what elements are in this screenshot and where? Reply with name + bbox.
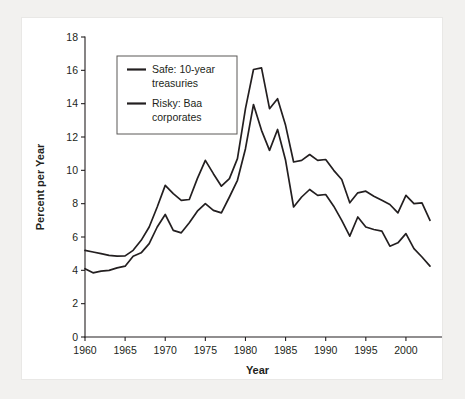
figure-root: 0246810121416181960196519701975198019851… — [0, 0, 465, 399]
legend-label-1-line2: corporates — [152, 111, 202, 123]
legend-label-0-line2: treasuries — [152, 77, 198, 89]
legend-label-1-line1: Risky: Baa — [152, 97, 202, 109]
x-tick-label-1990: 1990 — [314, 344, 338, 356]
x-tick-label-1970: 1970 — [154, 344, 178, 356]
chart-card: 0246810121416181960196519701975198019851… — [22, 18, 442, 379]
y-tick-label-4: 4 — [72, 264, 78, 276]
y-tick-label-12: 12 — [66, 131, 78, 143]
x-axis-title: Year — [246, 364, 270, 376]
x-tick-label-1965: 1965 — [113, 344, 137, 356]
axis-titles: YearPercent per Year — [34, 143, 270, 376]
y-tick-label-8: 8 — [72, 197, 78, 209]
y-tick-label-2: 2 — [72, 297, 78, 309]
y-tick-label-16: 16 — [66, 64, 78, 76]
legend-label-0-line1: Safe: 10-year — [152, 63, 216, 75]
chart-legend[interactable]: Safe: 10-yeartreasuriesRisky: Baacorpora… — [117, 56, 237, 134]
x-tick-label-1995: 1995 — [354, 344, 378, 356]
x-tick-label-1980: 1980 — [234, 344, 258, 356]
y-tick-label-18: 18 — [66, 31, 78, 43]
y-tick-label-6: 6 — [72, 231, 78, 243]
y-tick-label-14: 14 — [66, 97, 78, 109]
y-axis-title: Percent per Year — [34, 143, 46, 230]
y-tick-label-0: 0 — [72, 331, 78, 343]
x-tick-label-1985: 1985 — [274, 344, 298, 356]
x-tick-label-2000: 2000 — [394, 344, 418, 356]
y-tick-label-10: 10 — [66, 164, 78, 176]
x-tick-label-1975: 1975 — [194, 344, 218, 356]
interest-rate-line-chart: 0246810121416181960196519701975198019851… — [22, 18, 442, 379]
x-tick-label-1960: 1960 — [73, 344, 97, 356]
